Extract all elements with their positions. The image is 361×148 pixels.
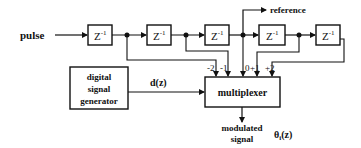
delay-block-1: Z-1 [88,25,112,45]
multiplexer-block: multiplexer [205,77,280,107]
tap-label--1: -1 [220,63,228,73]
d-z-label: d(z) [150,77,167,89]
digital-signal-generator-block: digital signal generator [70,67,128,109]
reference-label: reference [270,5,306,15]
tap-label--2: -2 [207,63,215,73]
tap-label-+1: +1 [250,63,260,73]
modulated-label: modulated [221,123,262,133]
tap-label-+2: +2 [265,63,275,73]
svg-text:signal: signal [88,84,111,94]
delay-block-2: Z-1 [147,25,171,45]
delay-block-3: Z-1 [205,25,229,45]
multiplexer-label: multiplexer [218,87,268,98]
delay-line-multiplexer-diagram: pulse Z-1 Z-1 Z-1 reference Z-1 Z-1 -2 -… [0,0,361,148]
signal-label: signal [231,134,254,144]
pulse-label: pulse [20,29,45,41]
svg-text:generator: generator [80,96,117,106]
delay-block-4: Z-1 [259,25,285,45]
theta-label: θi(z) [274,129,292,142]
delay-block-5: Z-1 [316,25,340,45]
svg-text:digital: digital [87,72,112,82]
